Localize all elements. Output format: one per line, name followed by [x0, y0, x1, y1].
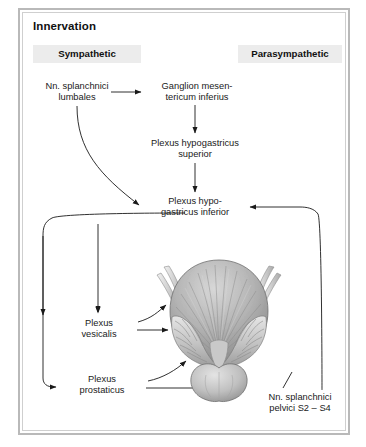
node-ganglion-mesentericum: Ganglion mesen- tericum inferius — [145, 81, 249, 104]
node-plexus-prostaticus: Plexus prostaticus — [60, 374, 144, 397]
node-splanchnici-lumbales: Nn. splanchnici lumbales — [24, 81, 130, 104]
node-plexus-vesicalis: Plexus vesicalis — [63, 318, 135, 341]
diagram-frame: Innervation Sympathetic Parasympathetic — [0, 0, 366, 447]
bladder-prostate-illustration — [148, 255, 290, 405]
prostate — [191, 364, 247, 402]
node-plexus-hypogastricus-superior: Plexus hypogastricus superior — [134, 138, 256, 161]
node-plexus-hypogastricus-inferior: Plexus hypo- gastricus inferior — [145, 196, 245, 219]
